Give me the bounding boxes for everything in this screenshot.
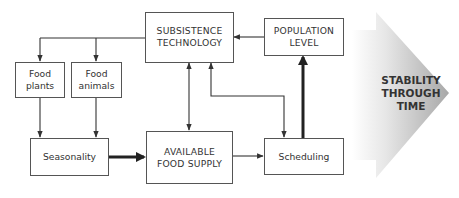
stability-through-time-arrow: STABILITY THROUGH TIME <box>352 12 449 178</box>
node-label-line-1: Scheduling <box>279 151 330 162</box>
stability-label-line-1: STABILITY <box>381 74 441 86</box>
node-label-line-2: TECHNOLOGY <box>156 37 222 48</box>
node-label-line-2: plants <box>26 80 54 91</box>
node-food-animals: Food animals <box>72 63 122 98</box>
node-label-line-1: AVAILABLE <box>164 146 215 157</box>
node-food-plants: Food plants <box>16 63 65 98</box>
stability-label-line-3: TIME <box>397 100 426 112</box>
diagram-canvas: STABILITY THROUGH TIME SUBSISTENCE TECHN… <box>0 0 459 198</box>
stability-label-line-2: THROUGH <box>382 87 441 99</box>
node-label-line-1: Food <box>85 68 107 79</box>
node-label-line-1: Seasonality <box>43 151 97 162</box>
node-subsistence-technology: SUBSISTENCE TECHNOLOGY <box>146 13 234 63</box>
node-label-line-2: animals <box>79 80 115 91</box>
node-label-line-1: POPULATION <box>274 25 334 36</box>
node-label-line-1: Food <box>29 68 51 79</box>
node-label-line-1: SUBSISTENCE <box>157 25 223 36</box>
edge-subsistence-scheduling <box>211 63 284 137</box>
node-scheduling: Scheduling <box>265 139 344 175</box>
node-population-level: POPULATION LEVEL <box>265 19 344 56</box>
node-label-line-2: FOOD SUPPLY <box>157 158 222 169</box>
node-label-line-2: LEVEL <box>289 37 319 48</box>
node-seasonality: Seasonality <box>31 139 109 176</box>
node-available-food-supply: AVAILABLE FOOD SUPPLY <box>147 132 233 184</box>
